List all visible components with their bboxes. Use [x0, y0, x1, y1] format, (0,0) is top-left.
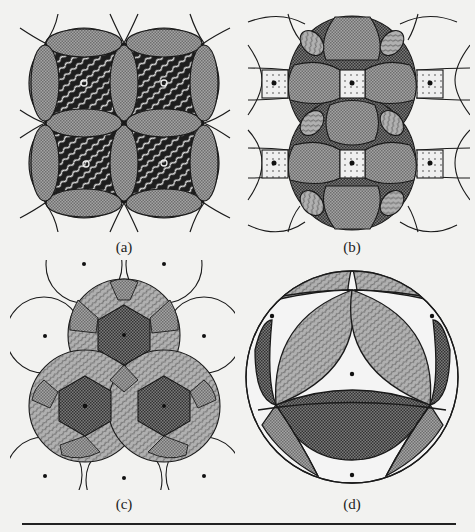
panel-a-label: (a)	[104, 239, 144, 256]
panel-d	[246, 264, 458, 483]
panel-c-label: (c)	[104, 496, 144, 513]
figure-canvas	[0, 0, 475, 532]
panel-c	[6, 227, 242, 518]
bottom-rule	[22, 523, 456, 525]
panel-b-label: (b)	[332, 239, 372, 256]
panel-d-label: (d)	[332, 496, 372, 513]
panel-b	[248, 14, 470, 232]
panel-a	[20, 14, 230, 232]
